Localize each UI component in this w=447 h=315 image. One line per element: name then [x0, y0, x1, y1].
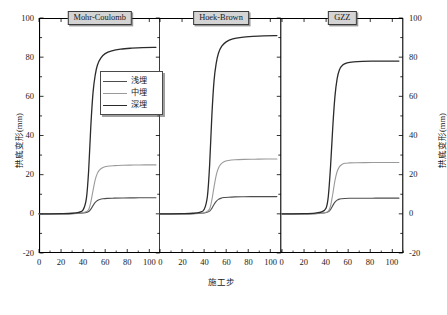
plot-area-3	[282, 18, 403, 253]
legend-label-浅埋: 浅埋	[131, 77, 147, 85]
x-tick-label-p0-2: 40	[73, 258, 93, 267]
x-tick-label-p2-5: 100	[382, 258, 402, 267]
y-tick-label-left-5: 80	[6, 53, 34, 62]
y-tick-label-right-6: 100	[409, 14, 439, 23]
legend-swatch-深埋	[103, 105, 127, 106]
x-tick-label-p1-0: 0	[150, 258, 170, 267]
y-tick-label-right-4: 60	[409, 92, 439, 101]
series-line-深埋	[160, 36, 277, 214]
x-axis-title: 施工步	[181, 275, 261, 287]
y-tick-label-right-1: 0	[409, 209, 439, 218]
x-tick-label-p1-3: 60	[217, 258, 237, 267]
panel-2	[160, 18, 281, 253]
legend-item-浅埋: 浅埋	[102, 75, 160, 87]
panel-3	[282, 18, 403, 253]
x-tick-label-p1-2: 40	[194, 258, 214, 267]
x-tick-label-p2-3: 60	[338, 258, 358, 267]
x-tick-label-p2-0: 0	[272, 258, 292, 267]
legend-swatch-中埋	[103, 93, 127, 94]
legend: 浅埋中埋深埋	[100, 71, 163, 115]
y-tick-label-left-0: -20	[6, 249, 34, 258]
y-tick-label-left-6: 100	[6, 14, 34, 23]
x-tick-label-p1-4: 80	[239, 258, 259, 267]
series-line-中埋	[282, 163, 399, 214]
panel-1	[39, 18, 160, 253]
panel-title-3: GZZ	[328, 11, 356, 25]
series-line-中埋	[39, 165, 156, 214]
legend-item-中埋: 中埋	[102, 87, 160, 99]
x-tick-label-p0-0: 0	[29, 258, 49, 267]
plot-area-2	[160, 18, 281, 253]
series-line-浅埋	[282, 198, 399, 214]
y-tick-label-right-0: -20	[409, 249, 439, 258]
x-tick-label-p1-1: 20	[172, 258, 192, 267]
x-tick-label-p0-3: 60	[95, 258, 115, 267]
y-axis-title-left: 拱底变形(mm)	[12, 113, 24, 168]
x-tick-label-p2-4: 80	[360, 258, 380, 267]
series-line-深埋	[282, 61, 399, 214]
x-tick-label-p0-4: 80	[117, 258, 137, 267]
series-line-浅埋	[160, 197, 277, 214]
series-line-浅埋	[39, 198, 156, 214]
series-line-中埋	[160, 159, 277, 214]
legend-label-中埋: 中埋	[131, 89, 147, 97]
panel-title-1: Mohr-Coulomb	[67, 11, 131, 25]
legend-label-深埋: 深埋	[131, 101, 147, 109]
x-tick-label-p2-1: 20	[294, 258, 314, 267]
x-tick-label-p2-2: 40	[316, 258, 336, 267]
y-tick-label-left-2: 20	[6, 170, 34, 179]
y-tick-label-left-4: 60	[6, 92, 34, 101]
y-tick-label-right-2: 20	[409, 170, 439, 179]
x-tick-label-p0-1: 20	[51, 258, 71, 267]
legend-item-深埋: 深埋	[102, 99, 160, 111]
y-tick-label-right-5: 80	[409, 53, 439, 62]
legend-swatch-浅埋	[103, 81, 127, 82]
plot-area-1	[39, 18, 160, 253]
y-tick-label-left-1: 0	[6, 209, 34, 218]
y-axis-title-right: 拱底变形(mm)	[435, 113, 447, 168]
panel-title-2: Hoek-Brown	[193, 11, 249, 25]
